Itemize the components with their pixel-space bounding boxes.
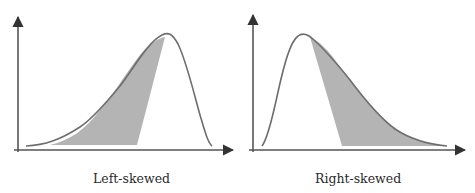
right-skewed-panel	[249, 15, 465, 152]
left-skewed-panel	[14, 17, 233, 152]
skewness-diagram	[0, 0, 475, 193]
right-skewed-caption: Right-skewed	[315, 173, 401, 186]
left-shaded-area	[50, 37, 165, 145]
left-skewed-caption: Left-skewed	[93, 173, 170, 186]
right-shaded-area	[310, 37, 442, 146]
